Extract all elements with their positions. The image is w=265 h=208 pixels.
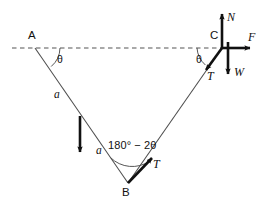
vector-label-t-at-b: T — [153, 158, 160, 170]
point-label-c: C — [210, 30, 218, 42]
vector-label-w: W — [234, 66, 244, 78]
tension-vector-at-c — [206, 48, 222, 70]
angle-label-at-b: 180° − 2θ — [108, 140, 156, 151]
rope-segment-ab — [35, 48, 128, 183]
vector-label-f: F — [248, 31, 255, 43]
diagram-canvas — [0, 0, 265, 208]
point-label-a: A — [28, 30, 36, 42]
side-label-lower: a — [96, 145, 102, 157]
side-label-upper: a — [54, 89, 60, 101]
vector-label-t-at-c: T — [207, 70, 214, 82]
angle-label-at-c: θ — [196, 54, 202, 65]
angle-label-at-a: θ — [57, 54, 63, 65]
vector-label-n: N — [227, 11, 235, 23]
force-diagram: A B C θ θ 180° − 2θ a a N F W T T — [0, 0, 265, 208]
point-label-b: B — [122, 187, 130, 199]
tension-vector-at-b — [128, 158, 152, 183]
